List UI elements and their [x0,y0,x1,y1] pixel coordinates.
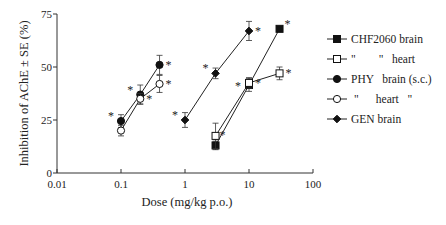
data-point [276,25,283,32]
data-point [137,95,144,102]
x-tick-label: 100 [305,178,322,190]
legend-label: " heart " [351,93,412,105]
legend-marker-icon [334,36,341,43]
significance-asterisk: * [220,128,226,142]
data-point [181,116,189,124]
significance-asterisk: * [166,58,172,72]
legend-marker-icon [333,75,340,82]
legend-label: GEN brain [351,113,401,125]
significance-asterisk: * [285,17,291,31]
legend-item: " " heart [327,53,416,65]
x-tick-label: 1 [182,178,188,190]
significance-asterisk: * [166,77,172,91]
legend-label: CHF2060 brain [351,33,423,45]
legend-label: PHY brain (s.c.) [351,73,432,86]
chart-svg: 02550750.010.1110100Dose (mg/kg p.o.)Inh… [0,0,446,225]
legend-marker-icon [334,56,341,63]
significance-asterisk: * [235,79,241,93]
data-point [212,132,219,139]
legend-item: " heart " [327,93,412,105]
significance-asterisk: * [172,108,178,122]
significance-asterisk: * [255,24,261,38]
legend-label: " " heart [351,53,416,65]
x-tick-label: 0.1 [114,178,128,190]
significance-asterisk: * [203,61,209,75]
data-point [156,80,163,87]
y-tick-label: 25 [41,114,53,126]
series-phy-heart: ** [117,75,171,135]
x-axis-title: Dose (mg/kg p.o.) [142,195,233,209]
legend-item: CHF2060 brain [327,33,423,45]
data-point [117,117,124,124]
legend-marker-icon [333,115,341,123]
x-tick-label: 0.01 [47,178,66,190]
data-point [156,61,163,68]
y-tick-label: 75 [41,8,53,20]
data-point [117,127,124,134]
significance-asterisk: * [127,83,133,97]
legend-item: GEN brain [327,113,401,125]
legend-item: PHY brain (s.c.) [327,73,432,86]
y-tick-label: 50 [41,61,53,73]
data-point [276,70,283,77]
data-point [246,79,253,86]
significance-asterisk: * [286,66,292,80]
legend-marker-icon [333,95,340,102]
significance-asterisk: * [108,109,114,123]
significance-asterisk: * [255,76,261,90]
y-axis-title: Inhibition of AChE ± SE (%) [17,20,31,166]
ache-inhibition-chart: 02550750.010.1110100Dose (mg/kg p.o.)Inh… [0,0,446,225]
series-gen-brain: *** [172,21,261,127]
series-phy-brain-s-c-: *** [108,55,172,127]
significance-asterisk: * [146,92,152,106]
x-tick-label: 10 [244,178,256,190]
